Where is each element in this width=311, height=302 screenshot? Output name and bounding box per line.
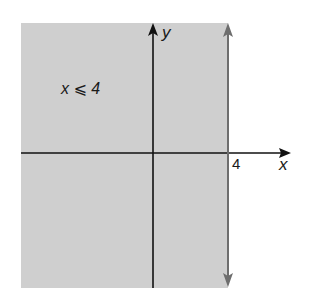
inequality-graph: y x 4 x ⩽ 4 (0, 0, 311, 302)
inequality-label: x ⩽ 4 (60, 80, 100, 97)
boundary-tick-label: 4 (232, 155, 240, 172)
shaded-region (21, 23, 228, 288)
x-axis-label: x (278, 155, 288, 174)
y-axis-label: y (161, 23, 172, 42)
inequality-label-text: x ⩽ 4 (60, 80, 100, 97)
